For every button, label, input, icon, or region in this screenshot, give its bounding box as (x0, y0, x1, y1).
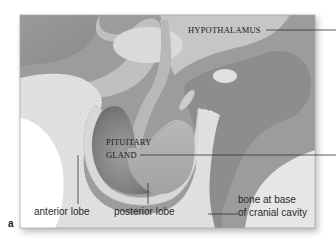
anterior-lobe-label: anterior lobe (34, 206, 90, 217)
pituitary-illustration: HYPOTHALAMUS PITUITARY GLAND anterior lo… (0, 0, 336, 245)
hypothalamus-label: HYPOTHALAMUS (188, 25, 261, 35)
posterior-lobe-label: posterior lobe (114, 206, 175, 217)
bone-label-line1: bone at base (238, 194, 296, 205)
pituitary-gland-label-line2: GLAND (106, 150, 137, 160)
panel-letter: a (8, 218, 14, 229)
pituitary-gland-label-line1: PITUITARY (106, 137, 152, 147)
bone-label-line2: of cranial cavity (238, 207, 307, 218)
